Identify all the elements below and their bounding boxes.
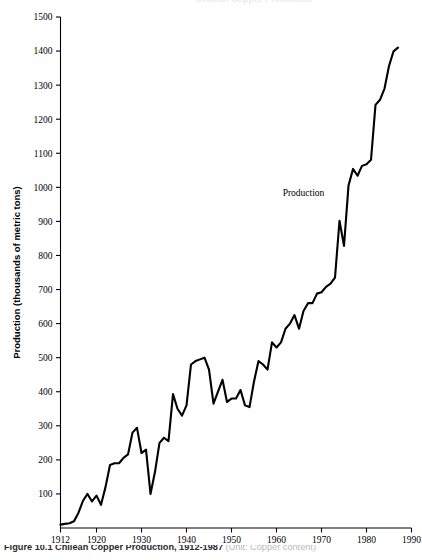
figure-caption: Figure 10.1 Chilean Copper Production, 1…	[4, 545, 316, 552]
y-axis-tick-label: 300	[38, 421, 53, 431]
y-axis-tick-label: 200	[38, 455, 53, 465]
y-axis-tick-label: 700	[38, 285, 53, 295]
x-axis-tick-label: 1912	[51, 535, 70, 545]
y-axis-tick-label: 500	[38, 353, 53, 363]
y-axis-tick-label: 900	[38, 217, 53, 227]
y-axis-tick-label: 1400	[34, 46, 53, 56]
x-axis-tick-marks	[61, 528, 412, 533]
x-axis-tick-label: 1930	[132, 535, 151, 545]
y-axis-tick-label: 1500	[34, 12, 53, 22]
production-annotation-label: Production	[283, 188, 325, 198]
chart-canvas: 1002003004005006007008009001000110012001…	[0, 0, 422, 560]
y-axis-tick-label: 800	[38, 251, 53, 261]
y-axis-tick-label: 600	[38, 319, 53, 329]
x-axis-tick-label: 1980	[357, 535, 376, 545]
axis-frame	[61, 17, 412, 528]
y-axis-tick-label: 1200	[34, 115, 53, 125]
y-axis-title: Production (thousands of metric tons)	[11, 186, 22, 359]
y-axis-tick-marks	[56, 17, 61, 494]
x-axis-tick-label: 1940	[177, 535, 196, 545]
y-axis-tick-label: 1000	[34, 183, 53, 193]
x-axis-tick-label: 1950	[222, 535, 241, 545]
x-axis-tick-label: 1970	[312, 535, 331, 545]
figure-caption-clip: Figure 10.1 Chilean Copper Production, 1…	[4, 545, 418, 554]
y-axis-tick-label: 1300	[34, 81, 53, 91]
x-axis-tick-labels: 191219201930194019501960197019801990	[51, 535, 421, 545]
y-axis-tick-labels: 1002003004005006007008009001000110012001…	[34, 12, 53, 499]
x-axis-tick-label: 1990	[402, 535, 421, 545]
x-axis-tick-label: 1920	[87, 535, 106, 545]
y-axis-tick-label: 100	[38, 489, 53, 499]
figure-caption-sub: (Unit: Copper content)	[223, 545, 316, 552]
y-axis-tick-label: 400	[38, 387, 53, 397]
x-axis-tick-label: 1960	[267, 535, 286, 545]
figure-caption-main: Figure 10.1 Chilean Copper Production, 1…	[4, 545, 223, 552]
figure-container: Chilean Copper Production 10020030040050…	[0, 0, 422, 560]
y-axis-tick-label: 1100	[34, 149, 53, 159]
production-line-series	[61, 48, 399, 525]
